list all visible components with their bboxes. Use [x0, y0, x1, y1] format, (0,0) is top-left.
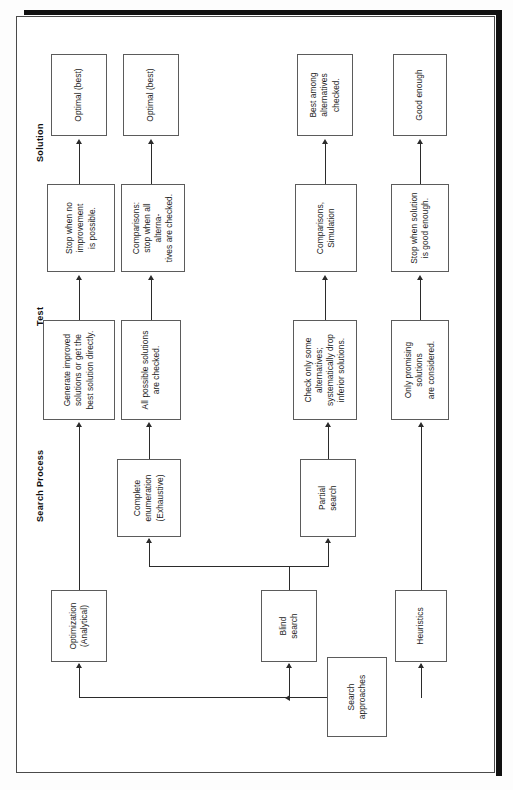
edge-process-to-test-optimization-arrow — [76, 275, 82, 280]
edge-test-to-solution-enumeration-arrow — [148, 139, 154, 144]
node-solution-enumeration[interactable]: Optimal (best) — [123, 54, 179, 136]
node-complete-enumeration[interactable]: Complete enumeration (Exhaustive) — [117, 459, 181, 537]
edge-test-to-solution-optimization — [79, 142, 80, 184]
edge-root-to-heuristics-arrow — [418, 663, 424, 668]
edge-process-to-test-heuristics-arrow — [417, 275, 423, 280]
node-partial-search[interactable]: Partial search — [300, 459, 356, 537]
column-header-solution: Solution — [35, 123, 45, 162]
edge-partial-to-process — [328, 424, 329, 459]
edge-test-to-solution-enumeration — [151, 142, 152, 184]
edge-test-to-solution-optimization-arrow — [76, 139, 82, 144]
edge-test-to-solution-heuristics — [420, 142, 421, 184]
edge-blind-stem — [289, 566, 290, 590]
diagram-viewport: Search Process Test Solution Search appr… — [17, 17, 494, 772]
edge-process-to-test-heuristics — [420, 278, 421, 320]
node-test-partial[interactable]: Comparisons, Simulation — [295, 184, 357, 272]
edge-process-to-test-optimization — [79, 278, 80, 320]
node-solution-optimization[interactable]: Optimal (best) — [51, 54, 107, 136]
node-test-enumeration[interactable]: Comparisons: stop when all alterna- tive… — [121, 184, 185, 272]
edge-root-to-blind-search — [289, 664, 290, 698]
edge-process-to-test-enumeration — [151, 278, 152, 320]
node-process-heuristics[interactable]: Only promising solutions are considered. — [391, 320, 449, 420]
edge-optimization-to-process — [79, 424, 80, 590]
edge-heuristics-to-process — [421, 424, 422, 590]
flowchart-canvas: Search Process Test Solution Search appr… — [17, 17, 494, 772]
edge-blind-to-complete — [149, 539, 150, 567]
edge-test-to-solution-partial — [325, 142, 326, 184]
edge-test-to-solution-heuristics-arrow — [417, 139, 423, 144]
edge-process-to-test-enumeration-arrow — [148, 275, 154, 280]
edge-blind-spine — [149, 566, 329, 567]
edge-process-to-test-partial-arrow — [322, 275, 328, 280]
column-header-search-process: Search Process — [35, 450, 45, 522]
edge-blind-to-partial-arrow — [325, 538, 331, 543]
node-process-optimization[interactable]: Generate improved solutions or get the b… — [43, 320, 115, 420]
edge-root-to-optimization — [79, 664, 80, 698]
edge-test-to-solution-partial-arrow — [322, 139, 328, 144]
edge-optimization-to-process-arrow — [76, 422, 82, 427]
edge-complete-to-process — [149, 424, 150, 459]
edge-root-to-optimization-arrow — [76, 663, 82, 668]
node-solution-partial[interactable]: Best among alternatives checked. — [297, 54, 353, 136]
page-shadow-right — [496, 10, 502, 776]
node-optimization[interactable]: Optimization (Analytical) — [51, 590, 107, 662]
edge-heuristics-to-process-arrow — [418, 422, 424, 427]
node-heuristics[interactable]: Heuristics — [395, 590, 447, 662]
edge-blind-to-complete-arrow — [146, 538, 152, 543]
node-search-approaches[interactable]: Search approaches — [327, 657, 387, 737]
node-blind-search[interactable]: Blind search — [261, 590, 317, 662]
edge-process-to-test-partial — [325, 278, 326, 320]
node-process-enumeration[interactable]: All possible solutions are checked. — [121, 320, 181, 420]
edge-root-trunk — [289, 697, 327, 698]
edge-root-to-heuristics — [421, 664, 422, 698]
edge-blind-to-partial — [328, 539, 329, 567]
page-shadow-top — [24, 10, 502, 15]
scanned-page: Search Process Test Solution Search appr… — [0, 0, 513, 790]
edge-root-spine — [79, 697, 290, 698]
node-test-optimization[interactable]: Stop when no improvement is possible. — [47, 184, 115, 272]
node-test-heuristics[interactable]: Stop when solution is good enough. — [391, 184, 449, 272]
edge-partial-to-process-arrow — [325, 422, 331, 427]
node-solution-heuristics[interactable]: Good enough — [393, 54, 447, 136]
edge-complete-to-process-arrow — [146, 422, 152, 427]
node-process-partial[interactable]: Check only some alternatives; systematic… — [293, 320, 357, 420]
edge-root-to-blind-search-arrow — [286, 663, 292, 668]
